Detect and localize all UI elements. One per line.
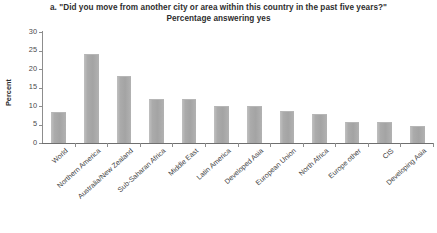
y-axis-tick: 20: [0, 69, 42, 70]
y-axis-tick: 25: [0, 51, 42, 52]
bar: [312, 114, 327, 143]
y-axis-tick: 30: [0, 32, 42, 33]
plot-area: [42, 32, 433, 143]
bar: [84, 54, 99, 143]
bar: [182, 99, 197, 143]
y-axis-tick: 15: [0, 88, 42, 89]
y-axis-label: Percent: [2, 62, 16, 122]
bar: [410, 126, 425, 143]
chart-container: a. "Did you move from another city or ar…: [0, 0, 437, 233]
x-axis-labels: WorldNorthern AmericaAustralia/New Zeala…: [0, 147, 437, 233]
bar: [149, 99, 164, 143]
chart-title: a. "Did you move from another city or ar…: [0, 2, 437, 13]
y-axis-tick-label: 0: [33, 138, 37, 147]
bar-series: [42, 32, 433, 143]
bar: [377, 122, 392, 143]
y-axis-tick-label: 20: [29, 64, 37, 73]
y-axis-tick-label: 25: [29, 45, 37, 54]
y-axis-tick-label: 5: [33, 119, 37, 128]
chart-title-block: a. "Did you move from another city or ar…: [0, 2, 437, 24]
y-axis-tick-mark: [39, 143, 42, 144]
chart-subtitle: Percentage answering yes: [0, 13, 437, 24]
bar: [51, 112, 66, 143]
bar: [247, 106, 262, 143]
y-axis-tick-label: 15: [29, 82, 37, 91]
x-axis-tick-label: Developed Asia: [67, 147, 265, 233]
y-axis-tick-label: 30: [29, 27, 37, 36]
bar: [117, 76, 132, 143]
bar: [280, 111, 295, 143]
bar: [345, 122, 360, 143]
bar: [214, 106, 229, 143]
y-axis-tick: 5: [0, 125, 42, 126]
y-axis-tick: 10: [0, 106, 42, 107]
y-axis-label-text: Percent: [5, 78, 14, 105]
y-axis-tick: 0: [0, 143, 42, 144]
y-axis-tick-label: 10: [29, 101, 37, 110]
